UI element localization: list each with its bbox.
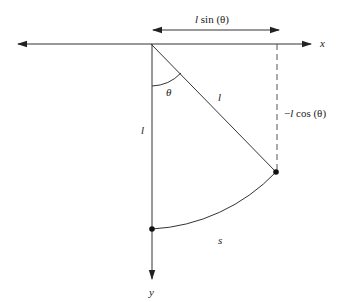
displaced-point xyxy=(273,169,279,175)
pendulum-rod xyxy=(151,44,276,172)
rod-length-vertical-label: l xyxy=(141,124,144,136)
pendulum-diagram: x l sin (θ) y l l θ −l cos (θ) s xyxy=(0,0,341,302)
angle-label: θ xyxy=(166,86,172,98)
rest-point xyxy=(149,226,155,232)
x-axis-label: x xyxy=(319,37,325,49)
rod-length-diagonal-label: l xyxy=(218,91,221,103)
y-axis-label: y xyxy=(148,286,154,298)
horizontal-displacement-label: l sin (θ) xyxy=(195,13,229,26)
arc-length-label: s xyxy=(218,234,222,246)
angle-arc xyxy=(152,73,181,86)
vertical-displacement-label: −l cos (θ) xyxy=(284,107,326,120)
swing-arc xyxy=(152,172,276,229)
